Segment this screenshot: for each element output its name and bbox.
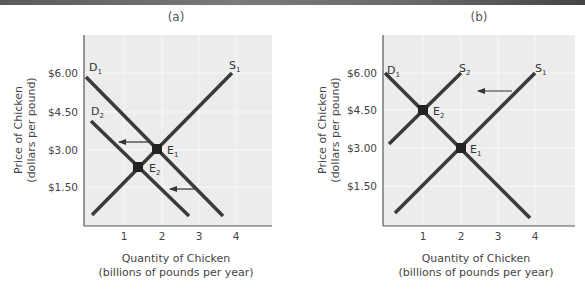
panel-b-equilibrium-e2 bbox=[418, 105, 428, 115]
panel-b-ytick-6: $6.00 bbox=[347, 67, 377, 79]
panel-a-ytick-4-5: $4.50 bbox=[48, 106, 78, 118]
panel-b-y-subtitle: (dollars per pound) bbox=[329, 77, 342, 182]
panel-b-xtick-3: 3 bbox=[495, 230, 502, 242]
panel-a-plot-area bbox=[84, 35, 272, 226]
panel-b-ytick-3: $3.00 bbox=[347, 142, 377, 154]
chart-canvas: (a) $6.00 $4.50 $3.00 $1.50 1 2 3 4 Quan… bbox=[0, 0, 585, 289]
panel-a: (a) $6.00 $4.50 $3.00 $1.50 1 2 3 4 Quan… bbox=[12, 10, 272, 279]
panel-a-ytick-3: $3.00 bbox=[48, 144, 78, 156]
panel-a-title: (a) bbox=[168, 10, 185, 24]
panel-a-equilibrium-e1 bbox=[152, 144, 162, 154]
panel-b-title: (b) bbox=[471, 10, 488, 24]
panel-b-xtick-2: 2 bbox=[458, 230, 465, 242]
panel-b-ytick-4-5: $4.50 bbox=[347, 104, 377, 116]
panel-b-xtick-4: 4 bbox=[532, 230, 539, 242]
panel-a-xtick-2: 2 bbox=[159, 230, 166, 242]
panel-b-x-subtitle: (billions of pounds per year) bbox=[399, 266, 554, 279]
panel-a-x-title: Quantity of Chicken bbox=[122, 252, 231, 265]
panel-a-xtick-4: 4 bbox=[233, 230, 240, 242]
panel-b: (b) $6.00 $4.50 $3.00 $1.50 1 2 3 4 Quan… bbox=[316, 10, 575, 279]
panel-b-y-title: Price of Chicken bbox=[316, 86, 329, 174]
panel-b-x-title: Quantity of Chicken bbox=[422, 252, 531, 265]
panel-a-xtick-1: 1 bbox=[121, 230, 128, 242]
panel-a-ytick-1-5: $1.50 bbox=[48, 181, 78, 193]
panel-b-xtick-1: 1 bbox=[420, 230, 427, 242]
panel-b-equilibrium-e1 bbox=[456, 143, 466, 153]
panel-a-ytick-6: $6.00 bbox=[48, 67, 78, 79]
panel-a-equilibrium-e2 bbox=[133, 162, 143, 172]
panel-a-y-subtitle: (dollars per pound) bbox=[25, 77, 38, 182]
panel-a-xtick-3: 3 bbox=[196, 230, 203, 242]
panel-b-ytick-1-5: $1.50 bbox=[347, 180, 377, 192]
panel-a-y-title: Price of Chicken bbox=[12, 86, 25, 174]
panel-a-x-subtitle: (billions of pounds per year) bbox=[99, 266, 254, 279]
